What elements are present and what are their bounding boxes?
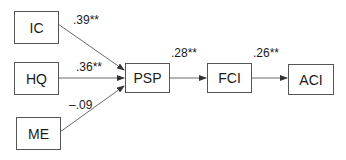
coef-me-psp: –.09 xyxy=(69,98,92,112)
node-hq: HQ xyxy=(14,62,59,95)
node-psp-label: PSP xyxy=(133,70,161,86)
node-hq-label: HQ xyxy=(26,71,47,87)
node-ic: IC xyxy=(14,11,59,44)
node-fci-label: FCI xyxy=(218,70,241,86)
node-aci-label: ACI xyxy=(299,72,322,88)
coef-fci-aci: .26** xyxy=(253,46,279,60)
node-aci: ACI xyxy=(288,64,334,95)
node-ic-label: IC xyxy=(30,20,44,36)
node-fci: FCI xyxy=(207,63,252,93)
node-me: ME xyxy=(16,117,61,150)
node-psp: PSP xyxy=(125,63,170,93)
coef-ic-psp: .39** xyxy=(73,13,99,27)
coef-psp-fci: .28** xyxy=(171,46,197,60)
coef-hq-psp: .36** xyxy=(76,60,102,74)
node-me-label: ME xyxy=(28,126,49,142)
